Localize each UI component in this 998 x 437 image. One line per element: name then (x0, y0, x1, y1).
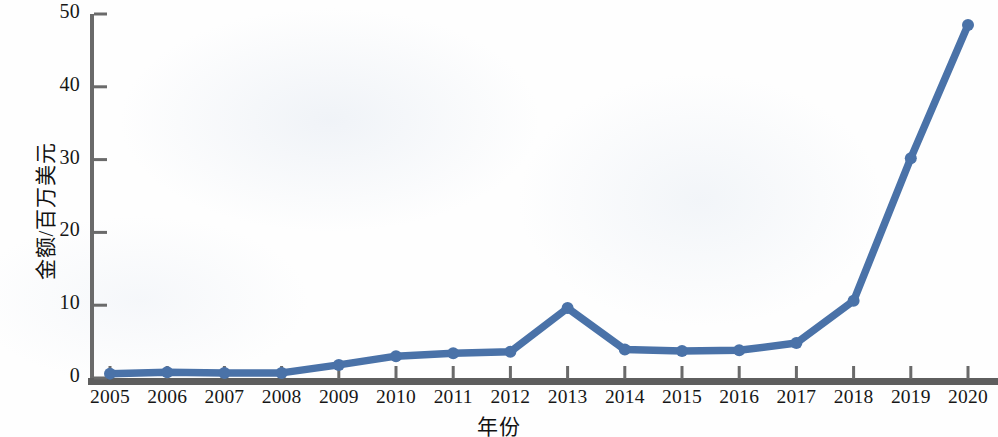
y-axis-line (90, 14, 94, 378)
data-point-marker (161, 366, 173, 378)
data-point-marker (848, 295, 860, 307)
x-axis-tick (395, 366, 398, 379)
data-point-marker (962, 19, 974, 31)
data-point-marker (733, 344, 745, 356)
x-axis-tick (566, 366, 569, 379)
y-axis-title: 金额/百万美元 (29, 101, 59, 321)
y-axis-tick-label: 40 (14, 73, 80, 96)
data-point-marker (676, 345, 688, 357)
data-point-marker (619, 344, 631, 356)
data-point-marker (504, 346, 516, 358)
line-chart-plot (0, 0, 998, 437)
y-axis-tick (94, 13, 107, 16)
y-axis-tick (94, 158, 107, 161)
x-axis-tick (967, 366, 970, 379)
data-point-marker (447, 347, 459, 359)
data-point-marker (390, 350, 402, 362)
x-axis-tick (738, 366, 741, 379)
x-axis-line (88, 378, 998, 385)
y-axis-tick-label: 0 (14, 364, 80, 387)
x-axis-tick (681, 366, 684, 379)
x-axis-tick (509, 366, 512, 379)
data-point-marker (333, 359, 345, 371)
chart-figure: 01020304050 2005200620072008200920102011… (0, 0, 998, 437)
y-axis-ticks (94, 13, 107, 380)
x-axis-tick (909, 366, 912, 379)
data-point-marker (104, 368, 116, 380)
y-axis-tick (94, 85, 107, 88)
x-axis-tick (452, 366, 455, 379)
x-axis-tick (795, 366, 798, 379)
x-axis-tick (623, 366, 626, 379)
y-axis-tick (94, 304, 107, 307)
data-point-marker (562, 302, 574, 314)
x-axis-tick (852, 366, 855, 379)
x-axis-title: 年份 (0, 410, 998, 437)
data-point-marker (218, 367, 230, 379)
y-axis-tick (94, 231, 107, 234)
data-point-marker (905, 152, 917, 164)
data-point-marker (790, 337, 802, 349)
data-point-marker (276, 367, 288, 379)
x-axis-tick-label: 2020 (928, 386, 998, 408)
y-axis-tick-label: 50 (14, 0, 80, 23)
data-line-series (110, 25, 968, 374)
